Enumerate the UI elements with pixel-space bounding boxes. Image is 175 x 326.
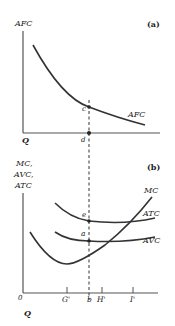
cost-curves-diagram: AFC (a) AFC c d Q MC, AVC, ATC (b) MC AT… <box>0 0 175 326</box>
tick-label-i-prime: I' <box>129 295 135 304</box>
panel-b-y-label-3: ATC <box>14 181 32 190</box>
point-a-marker <box>87 239 91 243</box>
panel-b-y-label-1: MC, <box>15 159 33 168</box>
tick-label-g-prime: G' <box>62 295 70 304</box>
mc-curve-label: MC <box>143 186 158 195</box>
panel-b-q-label: Q <box>24 308 31 318</box>
panel-a-tag: (a) <box>147 19 160 29</box>
avc-curve <box>55 232 155 242</box>
mc-curve <box>30 197 152 264</box>
afc-curve-label: AFC <box>127 110 145 119</box>
afc-axis-label: AFC <box>14 19 32 28</box>
point-c-label: c <box>82 105 86 113</box>
atc-curve <box>55 203 155 222</box>
panel-b: MC, AVC, ATC (b) MC ATC AVC e a G' b H' … <box>13 159 160 318</box>
panel-a: AFC (a) AFC c d Q <box>14 19 160 145</box>
point-d-label: d <box>81 136 86 144</box>
point-a-label: a <box>81 229 85 238</box>
panel-b-tag: (b) <box>147 162 160 172</box>
panel-a-q-label: Q <box>22 135 29 145</box>
tick-label-b: b <box>87 295 92 304</box>
point-e-marker <box>87 219 91 223</box>
origin-label: 0 <box>18 294 23 302</box>
panel-b-y-label-2: AVC, <box>13 170 34 179</box>
point-e-label: e <box>82 211 86 219</box>
avc-curve-label: AVC <box>142 236 160 245</box>
tick-label-h-prime: H' <box>96 295 106 304</box>
atc-curve-label: ATC <box>142 209 160 218</box>
